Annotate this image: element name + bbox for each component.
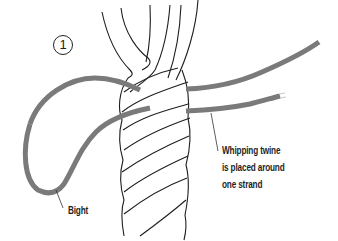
step-number-badge: 1 <box>53 35 73 55</box>
rope-and-twine-illustration <box>0 0 338 241</box>
twine-label-line-1: Whipping twine <box>222 142 285 159</box>
leader-lines <box>56 113 218 208</box>
whipping-twine-label: Whipping twine is placed around one stra… <box>222 142 285 193</box>
bight-label-text: Bight <box>68 205 88 216</box>
whipping-diagram: 1 Bight Whipping twine is placed around … <box>0 0 338 241</box>
twine-label-line-3: one strand <box>222 176 285 193</box>
unlaid-strands <box>102 0 198 92</box>
rope-body <box>120 68 191 240</box>
twine-label-line-2: is placed around <box>222 159 285 176</box>
twine-frayed-end <box>280 93 286 98</box>
bight-label: Bight <box>68 202 88 219</box>
